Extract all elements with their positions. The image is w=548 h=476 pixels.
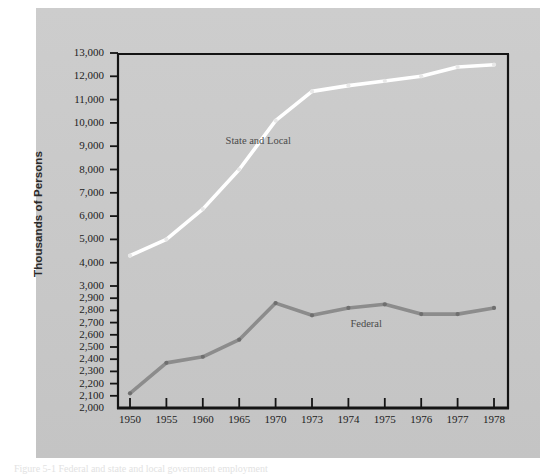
y-tick-label: 4,000: [52, 256, 104, 268]
y-tick-label: 3,000: [52, 279, 104, 291]
series-annotation-federal: Federal: [350, 318, 382, 329]
x-tick-label: 1960: [183, 413, 223, 425]
y-tick-label: 2,400: [52, 352, 104, 364]
y-tick-label: 11,000: [52, 93, 104, 105]
x-tick-label: 1965: [219, 413, 259, 425]
x-tick-label: 1974: [328, 413, 368, 425]
figure-container: 2,0002,1002,2002,3002,4002,5002,6002,700…: [0, 0, 548, 476]
y-tick-label: 7,000: [52, 186, 104, 198]
y-tick-label: 5,000: [52, 232, 104, 244]
y-tick-label: 6,000: [52, 209, 104, 221]
x-tick-label: 1975: [365, 413, 405, 425]
x-tick-label: 1955: [146, 413, 186, 425]
series-line-federal: [128, 301, 496, 395]
x-tick-label: 1978: [474, 413, 514, 425]
y-tick-label: 8,000: [52, 163, 104, 175]
y-tick-label: 12,000: [52, 69, 104, 81]
y-tick-label: 2,800: [52, 303, 104, 315]
y-tick-label: 2,300: [52, 364, 104, 376]
x-tick-label: 1973: [292, 413, 332, 425]
series-line-state-and-local: [128, 63, 496, 258]
y-tick-label: 2,500: [52, 340, 104, 352]
y-tick-label: 2,100: [52, 389, 104, 401]
x-tick-label: 1977: [438, 413, 478, 425]
figure-caption: Figure 5-1 Federal and state and local g…: [14, 463, 268, 474]
x-tick-label: 1976: [401, 413, 441, 425]
y-tick-label: 13,000: [52, 46, 104, 58]
y-axis-title: Thousands of Persons: [32, 114, 44, 314]
x-tick-label: 1970: [256, 413, 296, 425]
y-tick-label: 2,200: [52, 377, 104, 389]
y-axis-tick-marks: [110, 53, 118, 396]
x-tick-label: 1950: [110, 413, 150, 425]
y-tick-label: 9,000: [52, 139, 104, 151]
y-tick-label: 2,600: [52, 328, 104, 340]
y-tick-label: 2,000: [52, 401, 104, 413]
data-series-layer: [128, 63, 496, 396]
series-annotation-state-and-local: State and Local: [226, 135, 291, 146]
y-tick-label: 2,700: [52, 316, 104, 328]
y-tick-label: 2,900: [52, 291, 104, 303]
y-tick-label: 10,000: [52, 116, 104, 128]
plot-area: 2,0002,1002,2002,3002,4002,5002,6002,700…: [0, 0, 548, 476]
